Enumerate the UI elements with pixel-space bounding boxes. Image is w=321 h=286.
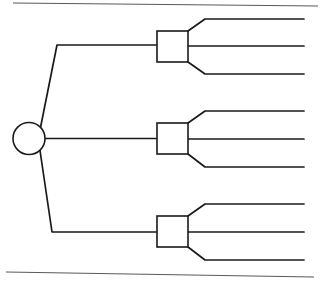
- branch-group-3: [157, 204, 304, 260]
- trunk-line-top: [41, 45, 158, 128]
- output-line-1-3[interactable]: [188, 62, 304, 74]
- fanout-lines-group-1: [188, 19, 304, 74]
- output-line-1-1[interactable]: [188, 19, 304, 31]
- diagram-canvas: [0, 0, 321, 286]
- trunk-connectors: [40, 45, 157, 232]
- branch-node-box-1[interactable]: [157, 31, 188, 62]
- output-line-3-1[interactable]: [188, 204, 304, 216]
- branch-node-box-3[interactable]: [157, 216, 188, 247]
- branch-node-box-2[interactable]: [157, 123, 188, 154]
- output-line-2-1[interactable]: [188, 111, 304, 123]
- trunk-line-bottom: [40, 151, 157, 233]
- source-node-circle[interactable]: [13, 123, 45, 155]
- output-line-3-3[interactable]: [188, 247, 304, 260]
- top-rule-line: [13, 3, 318, 6]
- branch-group-1: [157, 19, 304, 74]
- fanout-lines-group-2: [188, 111, 304, 167]
- fanout-lines-group-3: [188, 204, 304, 260]
- bottom-rule-line: [6, 272, 314, 277]
- output-line-2-3[interactable]: [188, 154, 304, 167]
- branch-group-2: [157, 111, 304, 167]
- branching-diagram: [0, 0, 321, 286]
